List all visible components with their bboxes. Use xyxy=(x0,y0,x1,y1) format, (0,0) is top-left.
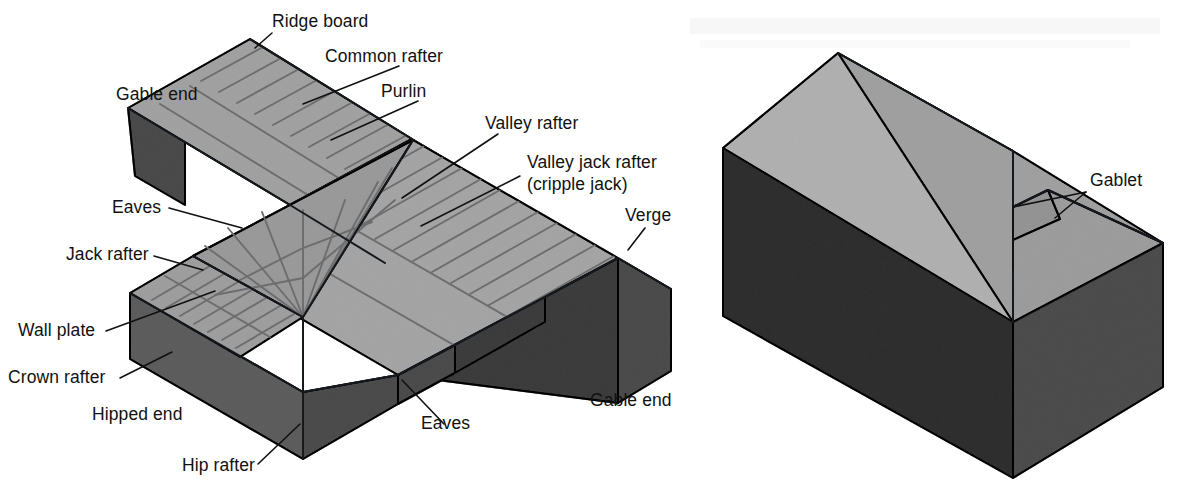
leader-ridge-board xyxy=(255,33,272,48)
roof-terminology-figure: Ridge board Common rafter Purlin Gable e… xyxy=(0,0,1183,502)
right-gable-end-wall xyxy=(618,258,671,403)
label-ridge-board: Ridge board xyxy=(272,11,368,31)
label-gablet: Gablet xyxy=(1090,170,1142,190)
label-crown-rafter: Crown rafter xyxy=(8,367,106,387)
label-verge: Verge xyxy=(625,205,671,225)
label-eaves-left: Eaves xyxy=(112,197,161,217)
label-common-rafter: Common rafter xyxy=(325,46,443,66)
label-purlin: Purlin xyxy=(381,81,426,101)
page-bleed-through xyxy=(690,18,1160,48)
label-eaves-bottom: Eaves xyxy=(421,413,470,433)
leader-verge xyxy=(628,228,645,250)
leader-eaves-left xyxy=(169,208,242,228)
label-gable-end-bottom: Gable end xyxy=(590,390,672,410)
label-gable-end-top: Gable end xyxy=(116,84,198,104)
label-hipped-end: Hipped end xyxy=(92,404,183,424)
right-roof-diagram: Gablet xyxy=(723,53,1163,478)
label-cripple-jack: (cripple jack) xyxy=(527,174,628,194)
figure-canvas: Ridge board Common rafter Purlin Gable e… xyxy=(0,0,1183,502)
label-valley-jack-rafter: Valley jack rafter xyxy=(527,152,657,172)
label-jack-rafter: Jack rafter xyxy=(66,244,149,264)
label-wall-plate: Wall plate xyxy=(18,320,95,340)
hipped-end-front-wall xyxy=(303,375,398,459)
label-hip-rafter: Hip rafter xyxy=(182,455,255,475)
left-roof-diagram: Ridge board Common rafter Purlin Gable e… xyxy=(8,11,672,475)
label-valley-rafter: Valley rafter xyxy=(485,113,578,133)
